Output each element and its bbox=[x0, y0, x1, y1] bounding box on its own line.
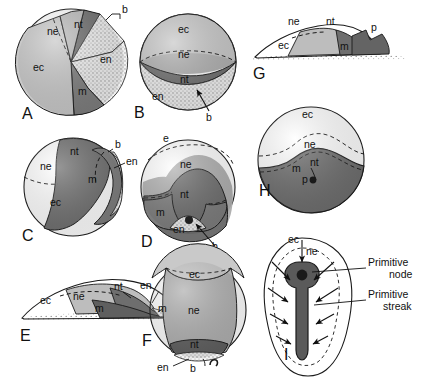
panel-A-label-b: b bbox=[122, 3, 128, 15]
panel-H-label-ne: ne bbox=[304, 138, 316, 150]
embryology-figure: ne nt b en ec m A ec ne nt en b B ne nt … bbox=[0, 0, 429, 381]
panel-F-label-nt: nt bbox=[190, 338, 199, 350]
panel-D-label-e: e bbox=[163, 132, 169, 144]
panel-B-label-ec: ec bbox=[178, 23, 189, 35]
panel-A-label-ec: ec bbox=[33, 61, 44, 73]
panel-I-primitive-node-shape bbox=[297, 270, 308, 281]
panel-G-letter: G bbox=[253, 65, 265, 82]
panel-H-letter: H bbox=[259, 182, 271, 199]
panel-G-label-m: m bbox=[340, 40, 349, 52]
panel-I-letter: I bbox=[284, 346, 288, 363]
panel-E-label-en: en bbox=[140, 279, 152, 291]
panel-D-label-m: m bbox=[156, 206, 165, 218]
panel-D-label-en: en bbox=[173, 223, 185, 235]
panel-C-label-en: en bbox=[126, 155, 138, 167]
panel-E-letter: E bbox=[20, 327, 31, 344]
panel-D-shading bbox=[141, 140, 235, 234]
panel-I-callout-streak-line2: streak bbox=[383, 300, 412, 312]
panel-H-label-nt: nt bbox=[310, 156, 319, 168]
panel-B-label-nt: nt bbox=[180, 73, 189, 85]
panel-H-label-p: p bbox=[302, 173, 308, 185]
panel-D-label-ne: ne bbox=[180, 158, 192, 170]
panel-E-label-ne: ne bbox=[73, 290, 85, 302]
panel-G-label-p: p bbox=[371, 21, 377, 33]
panel-E-label-ec: ec bbox=[40, 294, 51, 306]
panel-G-label-nt: nt bbox=[326, 15, 335, 27]
panel-D-letter: D bbox=[141, 233, 153, 250]
panel-H-label-m: m bbox=[292, 162, 301, 174]
panel-A-label-nt: nt bbox=[74, 18, 83, 30]
panel-B-letter: B bbox=[134, 104, 145, 121]
panel-I-label-ne: ne bbox=[306, 245, 318, 257]
panel-F-letter: F bbox=[142, 332, 152, 349]
panel-C-label-ne: ne bbox=[40, 160, 52, 172]
panel-C-label-ec: ec bbox=[50, 196, 61, 208]
panel-G-label-ec: ec bbox=[278, 39, 289, 51]
panel-I-callout-node-line1: Primitive bbox=[368, 256, 408, 268]
panel-F-label-b: b bbox=[190, 362, 196, 374]
panel-B-label-ne: ne bbox=[178, 48, 190, 60]
panel-A-label-en: en bbox=[100, 53, 112, 65]
panel-C-label-b: b bbox=[115, 138, 121, 150]
panel-I-label-ec: ec bbox=[288, 233, 299, 245]
panel-C-label-nt: nt bbox=[70, 145, 79, 157]
panel-F-label-en: en bbox=[157, 361, 169, 373]
panel-H-primitive-pit bbox=[310, 177, 317, 184]
panel-H: ec ne m nt p H bbox=[258, 107, 364, 213]
panel-E-label-nt: nt bbox=[114, 280, 123, 292]
panel-D-label-nt: nt bbox=[180, 188, 189, 200]
panel-F-label-ne: ne bbox=[188, 304, 200, 316]
panel-G-label-ne: ne bbox=[288, 15, 300, 27]
panel-A-label-ne: ne bbox=[47, 25, 59, 37]
panel-F-label-m: m bbox=[158, 302, 167, 314]
panel-I-callout-streak-line1: Primitive bbox=[368, 288, 408, 300]
panel-C-label-m: m bbox=[88, 173, 97, 185]
panel-H-label-ec: ec bbox=[302, 108, 313, 120]
figure-canvas: ne nt b en ec m A ec ne nt en b B ne nt … bbox=[0, 0, 429, 381]
panel-B-label-en: en bbox=[152, 90, 164, 102]
panel-B-label-b: b bbox=[206, 111, 212, 123]
panel-F-label-ec: ec bbox=[189, 268, 200, 280]
panel-I-callout-node-line2: node bbox=[389, 268, 413, 280]
panel-A-label-m: m bbox=[78, 85, 87, 97]
panel-C-letter: C bbox=[22, 227, 34, 244]
panel-E-label-m: m bbox=[95, 302, 104, 314]
panel-A-letter: A bbox=[22, 105, 33, 122]
